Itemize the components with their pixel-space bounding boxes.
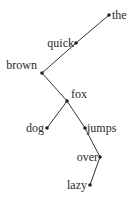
node-label-quick: quick	[47, 36, 74, 50]
node-label-dog: dog	[26, 121, 44, 135]
node-dot-fox	[65, 99, 69, 103]
edge-fox-jumps	[67, 101, 85, 128]
node-label-lazy: lazy	[67, 178, 87, 192]
node-dot-dog	[45, 126, 49, 130]
node-label-fox: fox	[71, 87, 87, 101]
node-dot-over	[98, 155, 102, 159]
node-label-the: the	[112, 8, 127, 22]
word-tree-diagram: the quick brown fox dog jumps over lazy	[0, 0, 130, 201]
edge-the-quick	[76, 15, 109, 43]
node-label-jumps: jumps	[86, 121, 117, 135]
edge-fox-dog	[47, 101, 67, 128]
node-dot-quick	[74, 41, 78, 45]
node-label-over: over	[77, 150, 98, 164]
node-label-brown: brown	[6, 58, 37, 72]
edge-brown-fox	[42, 73, 67, 101]
node-dot-brown	[40, 71, 44, 75]
node-dot-the	[107, 13, 111, 17]
node-dot-lazy	[88, 183, 92, 187]
